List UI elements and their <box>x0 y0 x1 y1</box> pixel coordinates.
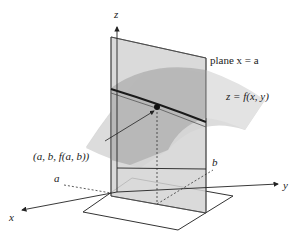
x-axis-label: x <box>8 211 14 223</box>
guide-a <box>64 185 111 193</box>
point-a-b-fab <box>154 104 160 110</box>
y-axis-label: y <box>282 179 288 191</box>
b-tick-label: b <box>212 156 218 168</box>
x-axis <box>22 192 117 210</box>
z-axis-label: z <box>113 8 119 20</box>
surface-label: z = f(x, y) <box>225 90 269 103</box>
point-label: (a, b, f(a, b)) <box>33 150 90 163</box>
surface-diagram: z x y plane x = a z = f(x, y) (a, b, f(a… <box>0 0 292 238</box>
plane-label: plane x = a <box>210 54 259 66</box>
a-tick-label: a <box>54 172 60 184</box>
